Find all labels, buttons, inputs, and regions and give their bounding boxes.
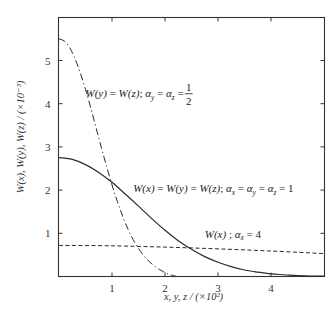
annotation-part: ; <box>226 228 235 240</box>
annotation-part: = <box>175 87 184 99</box>
x-axis-label: x, y, z / (×10²) <box>163 291 224 303</box>
annotation-part: = 1 <box>276 182 293 194</box>
annotation-part: = 4 <box>244 228 262 240</box>
x-tick-label: 4 <box>268 282 274 294</box>
series-dash-dot-line <box>59 39 176 276</box>
series-solid-line <box>59 158 324 276</box>
annotation-dash-dot: W(y) = W(z); αy = αz = <box>86 87 184 102</box>
annotation-part: = <box>107 87 119 99</box>
axes: 123412345 <box>45 18 325 294</box>
annotation-part: W(z) <box>199 182 220 195</box>
annotation-part: = <box>235 182 247 194</box>
annotation-part: = <box>188 182 200 194</box>
annotation-part: W(y) <box>86 87 108 100</box>
annotation-dashed: W(x) ; αx = 4 <box>205 228 262 243</box>
annotation-part: = <box>155 182 167 194</box>
series-layer <box>59 39 324 276</box>
annotation-part: = <box>154 87 166 99</box>
annotation-part: = <box>256 182 268 194</box>
y-tick-label: 4 <box>45 98 51 110</box>
y-tick-label: 1 <box>45 227 51 239</box>
plot-frame <box>59 18 325 277</box>
x-tick-label: 1 <box>109 282 115 294</box>
y-tick-label: 2 <box>45 184 51 196</box>
annotation-part: W(x) <box>133 182 155 195</box>
chart-canvas: 123412345 W(y) = W(z); αy = αz = 12W(x) … <box>0 0 336 327</box>
annotation-solid: W(x) = W(y) = W(z); αx = αy = αz = 1 <box>133 182 293 197</box>
y-tick-label: 3 <box>45 141 51 153</box>
annotations: W(y) = W(z); αy = αz = 12W(x) = W(y) = W… <box>86 81 294 242</box>
y-tick-label: 5 <box>45 55 51 67</box>
y-axis-label: W(x), W(y), W(z) / (×10⁻³) <box>15 80 27 193</box>
annotation-fraction-denominator: 2 <box>186 95 192 107</box>
annotation-fraction-numerator: 1 <box>186 81 192 93</box>
annotation-part: W(z) <box>119 87 140 100</box>
annotation-part: W(y) <box>166 182 188 195</box>
annotation-part: W(x) <box>205 228 227 241</box>
